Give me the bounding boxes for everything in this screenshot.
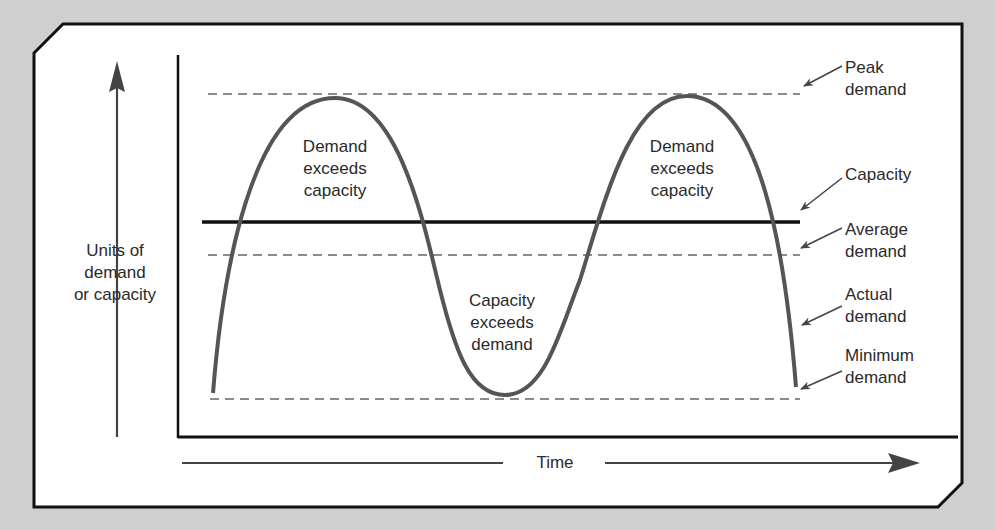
panel-frame: [34, 24, 962, 507]
region-text: exceeds: [447, 312, 557, 334]
y-axis-label: Units of demand or capacity: [60, 240, 170, 306]
y-axis-label-line: or capacity: [60, 284, 170, 306]
y-axis-label-line: demand: [60, 262, 170, 284]
callout-text: demand: [845, 79, 906, 101]
average-demand-label: Average demand: [845, 219, 908, 263]
y-axis-label-line: Units of: [60, 240, 170, 262]
callout-text: Minimum: [845, 345, 914, 367]
actual-demand-label: Actual demand: [845, 284, 906, 328]
region-capacity-exceeds-demand: Capacity exceeds demand: [447, 290, 557, 356]
minimum-demand-label: Minimum demand: [845, 345, 914, 389]
capacity-label: Capacity: [845, 164, 911, 186]
region-demand-exceeds-capacity-2: Demand exceeds capacity: [627, 136, 737, 202]
callout-text: demand: [845, 367, 914, 389]
region-text: exceeds: [280, 158, 390, 180]
region-text: Demand: [280, 136, 390, 158]
callout-text: Average: [845, 219, 908, 241]
region-text: demand: [447, 334, 557, 356]
x-axis-label: Time: [515, 452, 595, 474]
callout-text: Capacity: [845, 164, 911, 186]
callout-text: demand: [845, 241, 908, 263]
region-text: Demand: [627, 136, 737, 158]
diagram-stage: Units of demand or capacity Time Demand …: [0, 0, 995, 530]
region-text: capacity: [280, 180, 390, 202]
region-text: Capacity: [447, 290, 557, 312]
region-text: exceeds: [627, 158, 737, 180]
callout-text: demand: [845, 306, 906, 328]
peak-demand-label: Peak demand: [845, 57, 906, 101]
region-text: capacity: [627, 180, 737, 202]
callout-text: Actual: [845, 284, 906, 306]
region-demand-exceeds-capacity-1: Demand exceeds capacity: [280, 136, 390, 202]
callout-text: Peak: [845, 57, 906, 79]
